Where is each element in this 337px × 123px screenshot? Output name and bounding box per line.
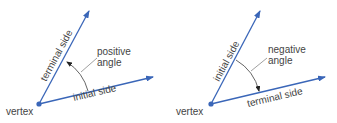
positive-angle-arc <box>67 62 88 91</box>
vertex-label: vertex <box>6 106 33 117</box>
positive-angle-diagram: vertex terminal side initial side positi… <box>6 11 153 117</box>
angle-label-line2: angle <box>97 57 122 68</box>
angle-label-line1: negative <box>268 44 306 55</box>
vertex-dot <box>208 101 213 106</box>
vertex-label: vertex <box>176 106 203 117</box>
angle-leader-line <box>81 58 97 72</box>
negative-angle-diagram: vertex initial side terminal side negati… <box>176 11 325 117</box>
vertex-dot <box>36 101 41 106</box>
angle-label-line2: angle <box>268 55 293 66</box>
angle-leader-line <box>251 58 267 71</box>
angle-label-line1: positive <box>97 46 131 57</box>
angle-diagrams: vertex terminal side initial side positi… <box>0 0 337 123</box>
initial-side-ray <box>211 11 260 104</box>
terminal-side-label: terminal side <box>38 27 75 83</box>
negative-angle-arc <box>236 60 259 91</box>
initial-side-label: initial side <box>72 82 118 103</box>
